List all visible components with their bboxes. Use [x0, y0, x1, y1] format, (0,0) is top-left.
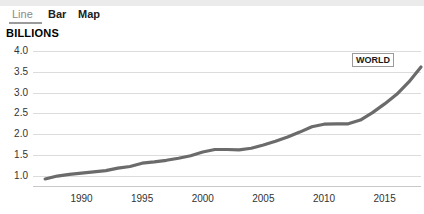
y-axis-tick: 3.5 — [0, 67, 28, 77]
top-band — [0, 0, 424, 6]
tab-map[interactable]: Map — [78, 7, 100, 21]
y-axis-tick: 3.0 — [0, 88, 28, 98]
x-axis-tick: 2015 — [374, 193, 396, 204]
x-axis-tick: 2010 — [313, 193, 335, 204]
y-axis-tick: 2.5 — [0, 108, 28, 118]
x-axis-tick-labels: 199019952000200520102015 — [0, 193, 424, 207]
y-axis-units-label: BILLIONS — [6, 27, 59, 39]
chart-screenshot: Line Bar Map BILLIONS 4.03.53.02.52.01.5… — [0, 0, 424, 214]
x-axis-tick: 1995 — [131, 193, 153, 204]
tab-line-label: Line — [12, 8, 33, 20]
x-axis-tick: 1990 — [70, 193, 92, 204]
y-axis-tick-labels: 4.03.53.02.52.01.51.0 — [0, 45, 30, 186]
tab-bar-label: Bar — [48, 8, 66, 20]
tab-bar: Line Bar Map — [0, 7, 424, 25]
y-axis-tick: 1.0 — [0, 171, 28, 181]
x-axis-tick: 2005 — [252, 193, 274, 204]
x-axis-tick: 2000 — [192, 193, 214, 204]
y-axis-tick: 1.5 — [0, 150, 28, 160]
tab-bar-item[interactable]: Bar — [48, 7, 66, 21]
tab-active-underline — [9, 22, 42, 24]
x-axis-line — [33, 186, 421, 187]
tab-map-label: Map — [78, 8, 100, 20]
tab-line[interactable]: Line — [12, 7, 33, 21]
series-label-world: WORLD — [352, 53, 394, 67]
y-axis-tick: 2.0 — [0, 129, 28, 139]
y-axis-tick: 4.0 — [0, 46, 28, 56]
